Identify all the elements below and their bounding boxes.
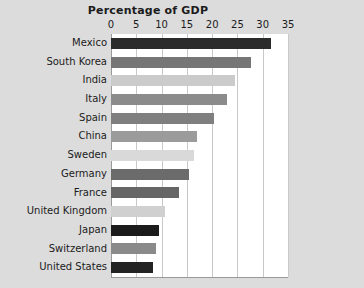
bar-row — [111, 90, 227, 109]
bar — [111, 150, 194, 161]
bar-row — [111, 258, 153, 277]
bar-row — [111, 34, 271, 53]
bar — [111, 206, 165, 217]
x-tick-label: 5 — [133, 19, 139, 30]
bar-row — [111, 240, 156, 259]
bar-row — [111, 71, 235, 90]
bar — [111, 113, 214, 124]
category-label: United Kingdom — [27, 202, 107, 221]
y-axis-category-labels: MexicoSouth KoreaIndiaItalySpainChinaSwe… — [0, 34, 107, 277]
bar — [111, 243, 156, 254]
category-label: Germany — [61, 165, 107, 184]
category-label: China — [78, 127, 107, 146]
category-label: Sweden — [67, 146, 107, 165]
bar-row — [111, 165, 189, 184]
chart-title: Percentage of GDP — [0, 4, 296, 17]
category-label: India — [82, 71, 107, 90]
x-tick-label: 0 — [108, 19, 114, 30]
bar — [111, 57, 251, 68]
bar-row — [111, 184, 179, 203]
bar-row — [111, 202, 165, 221]
bar — [111, 187, 179, 198]
x-axis-line — [111, 277, 288, 278]
x-tick-label: 10 — [155, 19, 168, 30]
category-label: Mexico — [72, 34, 107, 53]
category-label: Spain — [79, 109, 107, 128]
category-label: Japan — [79, 221, 107, 240]
bar-row — [111, 109, 214, 128]
bar — [111, 94, 227, 105]
bar-row — [111, 127, 197, 146]
x-tick-label: 30 — [256, 19, 269, 30]
category-label: South Korea — [46, 53, 107, 72]
bars-layer — [111, 34, 364, 277]
bar — [111, 225, 159, 236]
x-axis-tick-labels: 05101520253035 — [0, 19, 364, 33]
bar-row — [111, 221, 159, 240]
x-tick-label: 20 — [206, 19, 219, 30]
bar — [111, 38, 271, 49]
category-label: United States — [39, 258, 107, 277]
bar-row — [111, 146, 194, 165]
bar — [111, 75, 235, 86]
bar — [111, 169, 189, 180]
bar — [111, 262, 153, 273]
category-label: Switzerland — [49, 240, 107, 259]
category-label: France — [74, 184, 107, 203]
x-tick-label: 35 — [282, 19, 295, 30]
x-tick-label: 15 — [180, 19, 193, 30]
x-tick-label: 25 — [231, 19, 244, 30]
category-label: Italy — [85, 90, 107, 109]
bar-row — [111, 53, 251, 72]
bar-chart: Percentage of GDP 05101520253035 MexicoS… — [0, 0, 364, 288]
bar — [111, 131, 197, 142]
